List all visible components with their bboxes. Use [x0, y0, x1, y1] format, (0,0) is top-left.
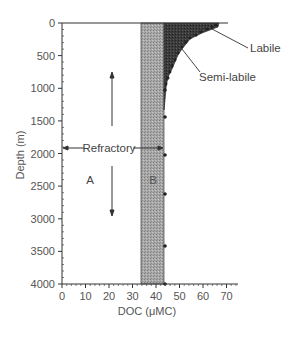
svg-text:60: 60: [197, 290, 209, 302]
svg-text:2000: 2000: [31, 148, 55, 160]
region-b-label: B: [149, 174, 157, 186]
svg-text:3000: 3000: [31, 213, 55, 225]
svg-text:0: 0: [49, 17, 55, 29]
x-tick-labels: 0 10 20 30 40 50 60 70: [59, 290, 233, 302]
y-tick-labels: 0 500 1000 1500 2000 2500 3000 3500 4000: [31, 17, 55, 290]
region-a-label: A: [86, 174, 94, 186]
svg-text:30: 30: [126, 290, 138, 302]
svg-text:1000: 1000: [31, 82, 55, 94]
svg-text:10: 10: [79, 290, 91, 302]
labile-label: Labile: [250, 42, 281, 54]
svg-text:20: 20: [103, 290, 115, 302]
y-axis-title: Depth (m): [14, 131, 26, 180]
svg-text:40: 40: [150, 290, 162, 302]
y-ticks: [58, 23, 62, 284]
refractory-band: [141, 23, 164, 284]
x-ticks: [62, 284, 227, 288]
svg-text:500: 500: [37, 50, 55, 62]
svg-text:50: 50: [173, 290, 185, 302]
svg-text:4000: 4000: [31, 278, 55, 290]
svg-text:0: 0: [59, 290, 65, 302]
refractory-label: Refractory: [82, 142, 135, 154]
semi-labile-label: Semi-labile: [199, 71, 256, 83]
svg-text:2500: 2500: [31, 180, 55, 192]
svg-text:3500: 3500: [31, 245, 55, 257]
svg-text:1500: 1500: [31, 115, 55, 127]
x-axis-title: DOC (μMC): [118, 305, 176, 317]
doc-depth-chart: 0 500 1000 1500 2000 2500 3000 3500 4000…: [0, 0, 292, 339]
svg-text:70: 70: [220, 290, 232, 302]
